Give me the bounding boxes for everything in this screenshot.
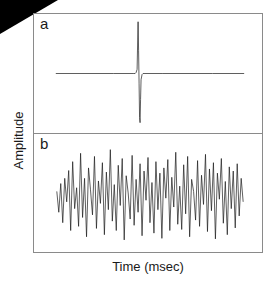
noise-trace xyxy=(34,134,262,254)
x-axis-label: Time (msec) xyxy=(33,259,263,274)
single-spike-panel: a xyxy=(34,14,262,134)
y-axis-label: Amplitude xyxy=(11,71,26,211)
spike-trace xyxy=(34,14,262,133)
plot-frame: a b xyxy=(33,13,263,253)
noise-trace-panel: b xyxy=(34,134,262,254)
